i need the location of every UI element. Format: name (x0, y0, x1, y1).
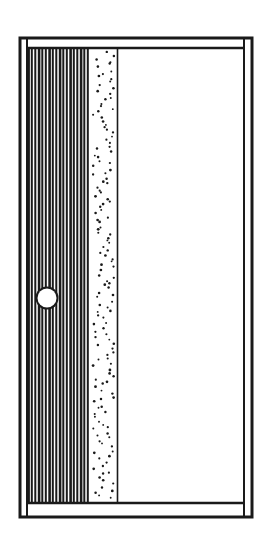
stipple-dot (100, 209, 102, 211)
stipple-dot (105, 139, 107, 141)
stipple-dot (107, 237, 110, 240)
stipple-dot (93, 451, 96, 454)
stipple-dot (106, 129, 108, 131)
stipple-dot (96, 187, 98, 189)
stipple-dot (104, 411, 106, 413)
stipple-dot (97, 110, 99, 112)
stipple-dot (112, 351, 114, 353)
stipple-dot (98, 476, 101, 479)
stipple-dot (112, 108, 114, 110)
stipple-dot (98, 440, 100, 442)
stipple-dot (109, 162, 111, 164)
stipple-dot (103, 283, 106, 286)
stipple-dot (105, 322, 107, 324)
stipple-dot (104, 172, 106, 174)
stipple-dot (102, 472, 104, 474)
stipple-dot (110, 150, 113, 153)
stripe (38, 48, 41, 503)
empty-panel-fill (118, 48, 244, 503)
stipple-dot (109, 369, 112, 372)
knob-face (38, 289, 57, 308)
stipple-dot (94, 492, 97, 495)
stipple-dot (111, 136, 113, 138)
stripe (31, 48, 33, 503)
stipple-dot (109, 200, 111, 202)
stipple-dot (108, 372, 111, 375)
stipple-dot (105, 124, 107, 126)
stipple-dot (98, 494, 100, 496)
stipple-dot (112, 87, 115, 90)
stripe (52, 48, 54, 503)
stripe (48, 48, 51, 503)
stipple-dot (92, 364, 95, 367)
stipple-dot (101, 390, 103, 392)
stipple-dot (100, 398, 103, 401)
stripe (80, 48, 83, 503)
stipple-dot (97, 314, 99, 316)
stipple-dot (94, 413, 96, 415)
stipple-dot (102, 327, 104, 329)
stipple-dot (98, 221, 101, 224)
stipple-dot (106, 380, 109, 383)
stipple-dot (102, 317, 104, 319)
stipple-dot (96, 90, 99, 93)
stipple-dot (112, 294, 115, 297)
stipple-dot (110, 363, 112, 365)
stipple-dot (99, 84, 101, 86)
stipple-dot (98, 457, 100, 459)
stipple-dot (107, 426, 109, 428)
stipple-dot (107, 217, 109, 219)
stipple-dot (94, 331, 96, 333)
empty-panel (118, 48, 244, 503)
stipple-dot (95, 379, 97, 381)
stipple-dot (108, 472, 110, 474)
stipple-dot (113, 277, 115, 279)
stripe (62, 48, 64, 503)
stipple-dot (106, 51, 108, 53)
stripe (69, 48, 72, 503)
stipple-dot (97, 311, 99, 313)
stipple-dot (112, 375, 114, 377)
stipple-dot (106, 198, 109, 201)
stipple-dot (101, 382, 103, 384)
stippled-panel (90, 48, 118, 503)
stipple-dot (112, 258, 114, 260)
stipple-dot (109, 62, 111, 64)
stipple-dot (99, 206, 101, 208)
stipple-dot (92, 164, 95, 167)
stipple-dot (95, 58, 98, 61)
stripe (59, 48, 62, 503)
stipple-dot (94, 155, 96, 157)
stipple-dot (102, 120, 105, 123)
stipple-dot (112, 131, 114, 133)
stipple-dot (113, 342, 116, 345)
stipple-dot (97, 156, 100, 159)
stipple-dot (102, 465, 104, 467)
stipple-dot (97, 232, 99, 234)
stipple-dot (92, 173, 94, 175)
stipple-dot (110, 71, 112, 73)
stipple-dot (99, 304, 102, 307)
stipple-dot (94, 416, 96, 418)
stipple-dot (106, 354, 108, 356)
stripe (55, 48, 57, 503)
stipple-dot (108, 436, 110, 438)
stipple-dot (98, 421, 100, 423)
stipple-dot (106, 280, 108, 282)
stipple-dot (98, 407, 100, 409)
stipple-dot (101, 442, 103, 444)
stipple-dot (105, 178, 107, 180)
stipple-dot (100, 269, 103, 272)
stipple-dot (102, 479, 105, 482)
stipple-dot (110, 78, 112, 80)
striped-panel (27, 48, 90, 503)
stipple-dot (101, 116, 104, 119)
stripe (73, 48, 75, 503)
stipple-dot (98, 274, 101, 277)
stipple-dot (106, 432, 108, 434)
stipple-dot (109, 93, 111, 95)
stipple-dot (98, 160, 100, 162)
cabinet-drawing (0, 0, 267, 543)
stipple-dot (108, 339, 110, 341)
stipple-dot (100, 263, 103, 266)
